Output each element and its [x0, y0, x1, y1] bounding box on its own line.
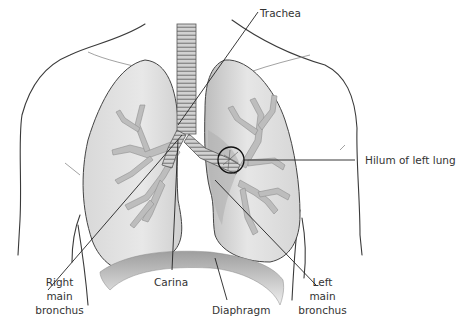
label-left-main-bronchus-line3: bronchus	[295, 303, 350, 317]
label-right-main-bronchus-line3: bronchus	[32, 303, 87, 317]
trachea	[177, 24, 196, 134]
label-hilum-left-lung: Hilum of left lung	[365, 153, 456, 167]
label-right-main-bronchus: Right main bronchus	[32, 275, 87, 317]
label-carina: Carina	[154, 275, 188, 289]
label-trachea: Trachea	[260, 6, 301, 20]
label-right-main-bronchus-line1: Right	[32, 275, 87, 289]
label-left-main-bronchus-line2: main	[295, 289, 350, 303]
label-right-main-bronchus-line2: main	[32, 289, 87, 303]
label-diaphragm: Diaphragm	[212, 303, 270, 317]
label-left-main-bronchus: Left main bronchus	[295, 275, 350, 317]
label-left-main-bronchus-line1: Left	[295, 275, 350, 289]
